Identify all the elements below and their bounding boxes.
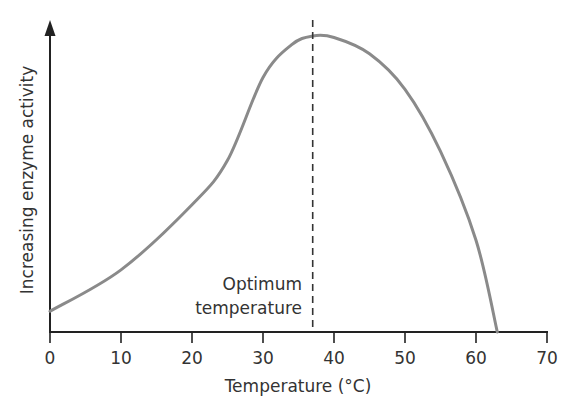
x-axis-ticks	[50, 332, 547, 343]
x-tick-label: 40	[323, 348, 345, 368]
enzyme-activity-chart: 010203040506070 Increasing enzyme activi…	[0, 0, 580, 414]
x-tick-label: 30	[252, 348, 274, 368]
x-tick-label: 70	[536, 348, 558, 368]
y-axis-title: Increasing enzyme activity	[17, 66, 37, 294]
x-tick-label: 50	[394, 348, 416, 368]
x-axis-title: Temperature (°C)	[224, 376, 372, 396]
x-tick-label: 60	[465, 348, 487, 368]
x-tick-label: 10	[110, 348, 132, 368]
x-tick-label: 20	[181, 348, 203, 368]
optimum-label-line1: Optimum	[223, 274, 302, 294]
x-axis-tick-labels: 010203040506070	[45, 348, 558, 368]
y-axis-arrow-icon	[45, 20, 56, 36]
optimum-label-line2: temperature	[195, 298, 302, 318]
x-tick-label: 0	[45, 348, 56, 368]
